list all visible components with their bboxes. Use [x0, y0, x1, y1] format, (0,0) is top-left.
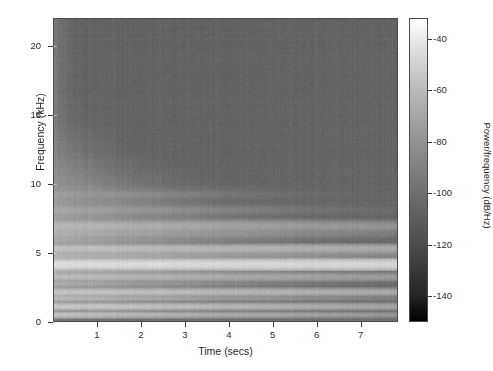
colorbar-tick-label: -40: [433, 34, 447, 44]
colorbar-tick-mark: [428, 193, 432, 194]
colorbar-tick-mark: [428, 296, 432, 297]
spectrogram-image: [54, 19, 397, 321]
x-tick-mark: [185, 322, 186, 327]
y-tick-label: 0: [36, 317, 41, 327]
y-tick-mark-inner: [53, 115, 57, 116]
x-tick-label: 5: [263, 329, 283, 340]
colorbar-tick-mark: [428, 142, 432, 143]
x-tick-mark: [97, 322, 98, 327]
colorbar-tick-label: -140: [433, 291, 452, 301]
y-tick-label: 5: [36, 248, 41, 258]
x-tick-mark: [317, 322, 318, 327]
colorbar-tick-mark: [428, 245, 432, 246]
colorbar-tick-label: -100: [433, 188, 452, 198]
x-tick-mark: [361, 322, 362, 327]
colorbar-tick-label: -120: [433, 240, 452, 250]
x-tick-label: 7: [351, 329, 371, 340]
y-tick-mark-inner: [53, 184, 57, 185]
colorbar-tick-label: -60: [433, 85, 447, 95]
x-tick-mark: [229, 322, 230, 327]
x-tick-label: 1: [87, 329, 107, 340]
x-tick-mark: [273, 322, 274, 327]
colorbar-gradient: [410, 19, 427, 321]
y-tick-mark-inner: [53, 253, 57, 254]
y-tick-mark-inner: [53, 322, 57, 323]
x-tick-label: 3: [175, 329, 195, 340]
spectrogram-plot-area: [53, 18, 398, 322]
x-tick-label: 2: [131, 329, 151, 340]
x-tick-label: 6: [307, 329, 327, 340]
x-axis-label: Time (secs): [53, 345, 398, 357]
colorbar-tick-mark: [428, 90, 432, 91]
colorbar: [409, 18, 428, 322]
colorbar-label: Power/frequency (dB/Hz): [482, 86, 493, 266]
colorbar-tick-label: -80: [433, 137, 447, 147]
y-tick-mark-inner: [53, 46, 57, 47]
x-tick-mark: [141, 322, 142, 327]
y-axis-label: Frequency (kHz): [34, 42, 46, 222]
x-tick-label: 4: [219, 329, 239, 340]
colorbar-tick-mark: [428, 39, 432, 40]
